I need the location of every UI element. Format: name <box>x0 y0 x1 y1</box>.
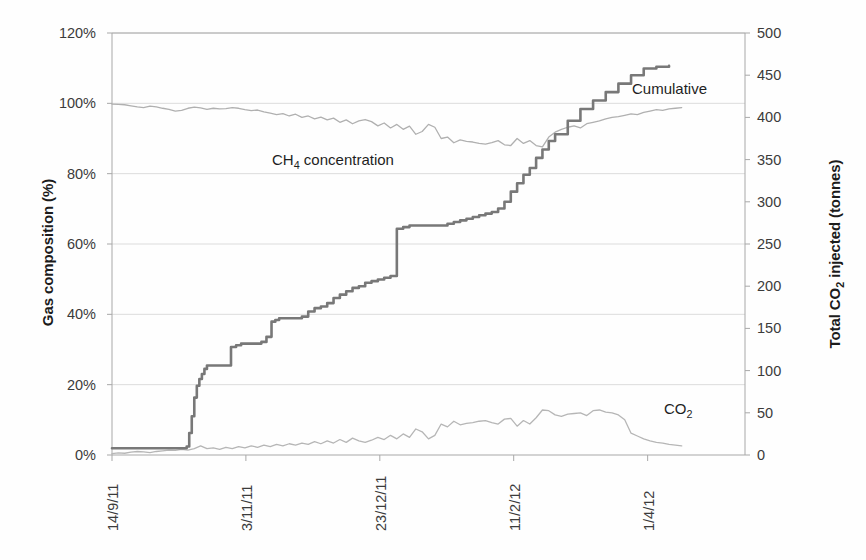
series-line-cumulative <box>112 66 669 448</box>
series-label-co2: CO2 <box>664 400 693 420</box>
chart-container: Gas composition (%) Total CO2 injected (… <box>0 0 866 560</box>
plot-area <box>0 0 866 560</box>
series-label-ch4-text: CH4 concentration <box>272 151 394 168</box>
series-line-ch4-concentration <box>112 104 682 147</box>
series-line-co2 <box>112 410 682 454</box>
series-label-ch4: CH4 concentration <box>272 151 394 171</box>
series-label-cumulative-text: Cumulative <box>632 80 707 97</box>
series-label-co2-text: CO2 <box>664 400 693 417</box>
series-label-cumulative: Cumulative <box>632 80 707 97</box>
